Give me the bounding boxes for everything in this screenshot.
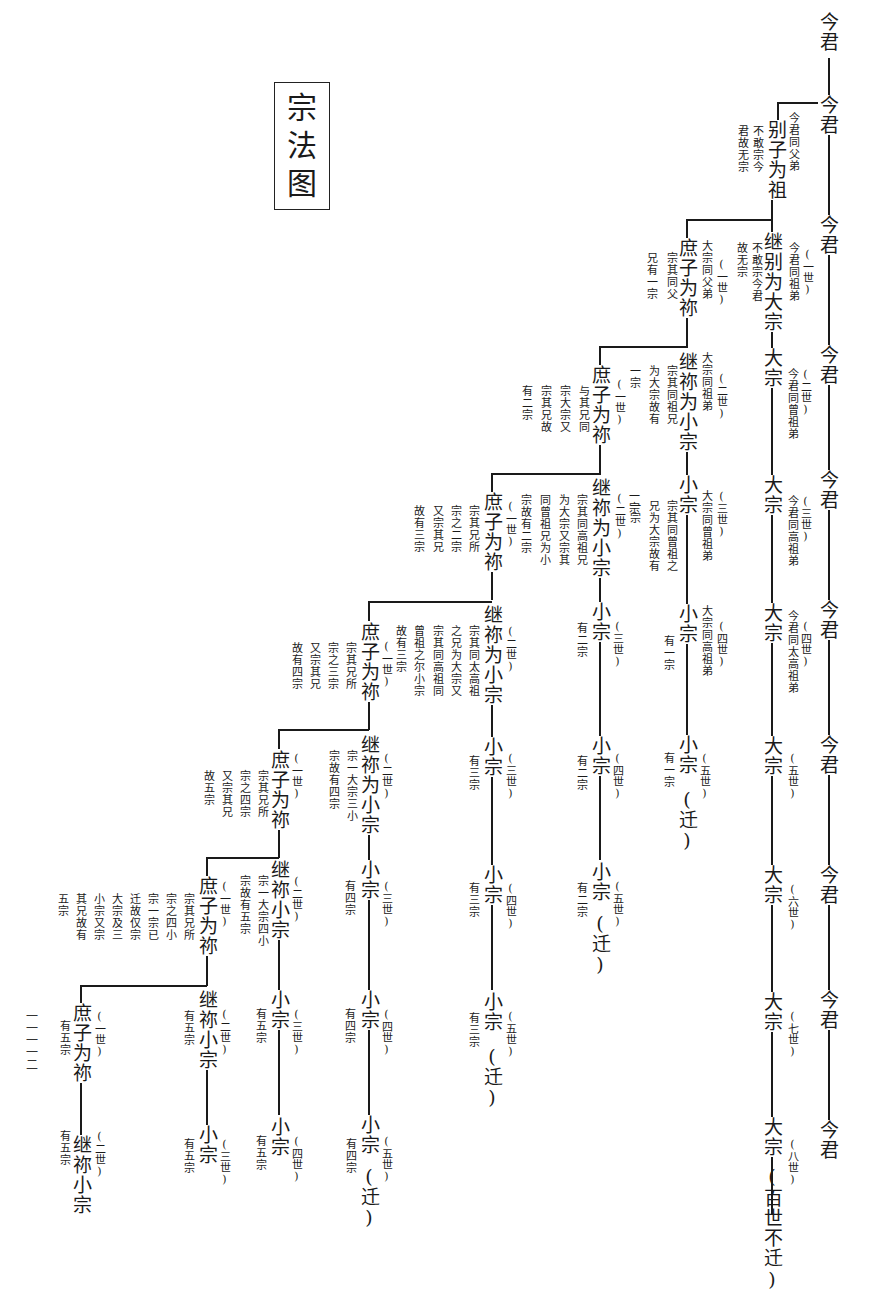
generation-label: (二世) <box>716 372 727 420</box>
branch-line <box>278 729 280 749</box>
node-great-end: (百世不迁) <box>762 1165 781 1291</box>
node-c3: 小宗 <box>482 865 501 905</box>
node-g1: 继祢小宗 <box>197 990 216 1070</box>
node-note: 宗其同父 <box>665 252 678 300</box>
node-great-5: 大宗 <box>762 736 781 776</box>
migrated-label: (迁) <box>590 912 609 975</box>
node-note: 宗其兄所 <box>256 770 269 818</box>
node-b3: 小宗 <box>590 736 609 776</box>
generation-label: (一世) <box>802 248 813 296</box>
node-note: 有五宗 <box>254 1008 267 1044</box>
node-great-4: 大宗 <box>762 603 781 643</box>
node-note: 宗其兄故 <box>539 385 552 433</box>
generation-label: (三世) <box>800 495 811 543</box>
node-note: 故有三宗 <box>412 505 425 553</box>
ruler-node: 今君 <box>818 95 837 135</box>
node-note: 大宗同曾祖弟 <box>700 490 713 562</box>
generation-label: (四世) <box>291 1135 302 1183</box>
branch-line <box>686 219 688 239</box>
node-note: 曾祖之尔小宗 <box>412 625 425 697</box>
node-note: 有二宗 <box>575 882 588 918</box>
node-note: 又宗其兄 <box>308 642 321 690</box>
node-note: 为大宗又宗其 <box>557 494 570 566</box>
generation-label: (四世) <box>716 620 727 668</box>
ruler-node: 今君 <box>818 990 837 1030</box>
node-note: 大宗同父弟 <box>700 240 713 300</box>
node-b1: 继祢为小宗 <box>590 478 609 578</box>
migrated-label: (迁) <box>482 1045 501 1108</box>
node-note: 与其兄同 <box>577 385 590 433</box>
generation-label: (一世) <box>219 880 230 928</box>
node-shuzi-5: 庶子为祢 <box>269 750 288 830</box>
node-note: 又宗其兄 <box>220 770 233 818</box>
node-shuzi-7: 庶子为祢 <box>71 1003 90 1083</box>
node-note: 宗其兄所 <box>344 642 357 690</box>
generation-label: (三世) <box>219 1138 230 1186</box>
node-note: 有三宗 <box>467 755 480 791</box>
node-note: 又宗其兄 <box>431 505 444 553</box>
node-great-6: 大宗 <box>762 865 781 905</box>
node-note: 有一宗 <box>662 635 675 671</box>
node-note: 大宗及三 <box>110 893 123 941</box>
node-note: 有五宗 <box>182 1138 195 1174</box>
node-h1: 继祢小宗 <box>71 1135 90 1215</box>
generation-label: (一世) <box>291 752 302 800</box>
node-b2: 小宗 <box>590 602 609 642</box>
page-number: 一一一一二 <box>24 1010 36 1070</box>
node-great-8: 大宗 <box>762 1117 781 1157</box>
node-note: 为大宗故有 <box>647 365 660 425</box>
node-note: 今君同高祖弟 <box>786 495 799 567</box>
generation-label: (五世) <box>699 752 710 800</box>
branch-line <box>80 985 207 987</box>
node-note: 宗其同太高祖 <box>467 625 480 697</box>
node-note: 故有四宗 <box>290 642 303 690</box>
migrated-label: (迁) <box>359 1165 378 1228</box>
generation-label: (一世) <box>614 378 625 426</box>
generation-label: (五世) <box>381 1135 392 1183</box>
generation-label: (三世) <box>505 752 516 800</box>
node-f3: 小宗 <box>269 1117 288 1157</box>
node-note: 宗之三宗 <box>326 642 339 690</box>
branch-line <box>491 473 493 493</box>
diagram-title: 宗法图 <box>284 92 314 206</box>
node-e3: 小宗 <box>359 990 378 1030</box>
node-shuzi-2: 庶子为祢 <box>590 365 609 445</box>
node-great-7: 大宗 <box>762 992 781 1032</box>
generation-label: (五世) <box>505 1010 516 1058</box>
branch-line <box>599 346 601 366</box>
node-f1: 继祢小宗 <box>269 860 288 940</box>
great-lineage-line <box>771 185 773 1215</box>
branch-line <box>368 601 370 621</box>
node-note: 宗其同高祖兄 <box>575 494 588 566</box>
generation-label: (七世) <box>787 1010 798 1058</box>
node-note: 有三宗 <box>467 1012 480 1048</box>
branch-line <box>599 346 687 348</box>
generation-label: (二世) <box>800 368 811 416</box>
generation-label: (四世) <box>381 1008 392 1056</box>
node-note: 同曾祖兄为小 <box>538 494 551 566</box>
generation-label: (一世) <box>381 640 392 688</box>
generation-label: (三世) <box>716 490 727 538</box>
node-note: 有五宗 <box>182 1010 195 1046</box>
node-note: 不敢宗今君 <box>750 242 763 302</box>
node-note: 大宗同高祖弟 <box>700 605 713 677</box>
branch-line <box>80 985 82 1003</box>
node-note: 有四宗 <box>344 1138 357 1174</box>
node-note: 宗一宗已 <box>146 893 159 941</box>
ruler-node: 今君 <box>818 470 837 510</box>
node-note: 有四宗 <box>343 880 356 916</box>
node-note: 宗之四小 <box>164 893 177 941</box>
migrated-label: (迁) <box>677 788 696 851</box>
node-e1: 继祢为小宗 <box>359 735 378 835</box>
generation-label: (一世) <box>716 258 727 306</box>
node-note: 宗之二宗 <box>449 505 462 553</box>
node-note: 不敢宗今 <box>751 125 764 173</box>
node-jibie: 继别为大宗 <box>762 232 781 332</box>
generation-label: (三世) <box>381 880 392 928</box>
generation-label: (三世) <box>291 1008 302 1056</box>
generation-label: (二世) <box>291 875 302 923</box>
node-note: 宗故有二宗 <box>519 494 532 554</box>
generation-label: (四世) <box>612 752 623 800</box>
ruler-node: 今君 <box>818 735 837 775</box>
